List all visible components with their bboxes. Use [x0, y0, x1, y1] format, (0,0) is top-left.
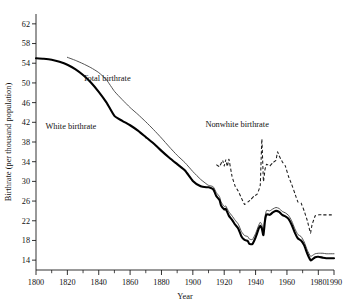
y-tick-group: [32, 24, 36, 260]
series-annotation-2: Nonwhite birthrate: [205, 120, 269, 129]
x-axis-title: Year: [177, 292, 193, 301]
x-tick-label: 1800: [28, 278, 44, 287]
series-annotation-1: White birthrate: [45, 122, 96, 131]
y-tick-label: 54: [22, 59, 30, 68]
series-line-white-birthrate: [36, 58, 334, 260]
birthrate-chart: 14182226303438424650545862 1800182018401…: [0, 0, 345, 308]
chart-canvas: 14182226303438424650545862 1800182018401…: [0, 0, 345, 308]
x-tick-label: 1960: [279, 278, 295, 287]
y-tick-label: 34: [22, 158, 30, 167]
x-tick-label: 1860: [122, 278, 138, 287]
y-tick-label: 26: [22, 197, 30, 206]
y-tick-label-group: 14182226303438424650545862: [22, 20, 30, 265]
x-tick-group: [36, 270, 334, 275]
x-tick-label: 1990: [326, 278, 342, 287]
y-tick-label: 38: [22, 138, 30, 147]
series-annotation-group: Total birthrateWhite birthrateNonwhite b…: [45, 74, 269, 131]
x-tick-label: 1940: [247, 278, 263, 287]
x-tick-label: 1980: [310, 278, 326, 287]
y-tick-label: 30: [22, 177, 30, 186]
series-annotation-0: Total birthrate: [83, 74, 131, 83]
y-tick-label: 58: [22, 39, 30, 48]
x-tick-label: 1820: [59, 278, 75, 287]
series-line-total-birthrate: [67, 57, 334, 256]
y-axis-title: Birthrate (per thousand population): [4, 83, 13, 202]
axes-group: [32, 14, 334, 275]
y-tick-label: 46: [22, 99, 30, 108]
series-group: [36, 57, 334, 260]
y-tick-label: 14: [22, 256, 30, 265]
x-tick-label: 1880: [153, 278, 169, 287]
y-tick-label: 50: [22, 79, 30, 88]
y-tick-label: 22: [22, 217, 30, 226]
y-tick-label: 42: [22, 118, 30, 127]
x-tick-label-group: 1800182018401860188019001920194019601980…: [28, 278, 342, 287]
x-tick-label: 1900: [185, 278, 201, 287]
x-tick-label: 1920: [216, 278, 232, 287]
x-tick-label: 1840: [91, 278, 107, 287]
y-tick-label: 62: [22, 20, 30, 29]
y-tick-label: 18: [22, 236, 30, 245]
